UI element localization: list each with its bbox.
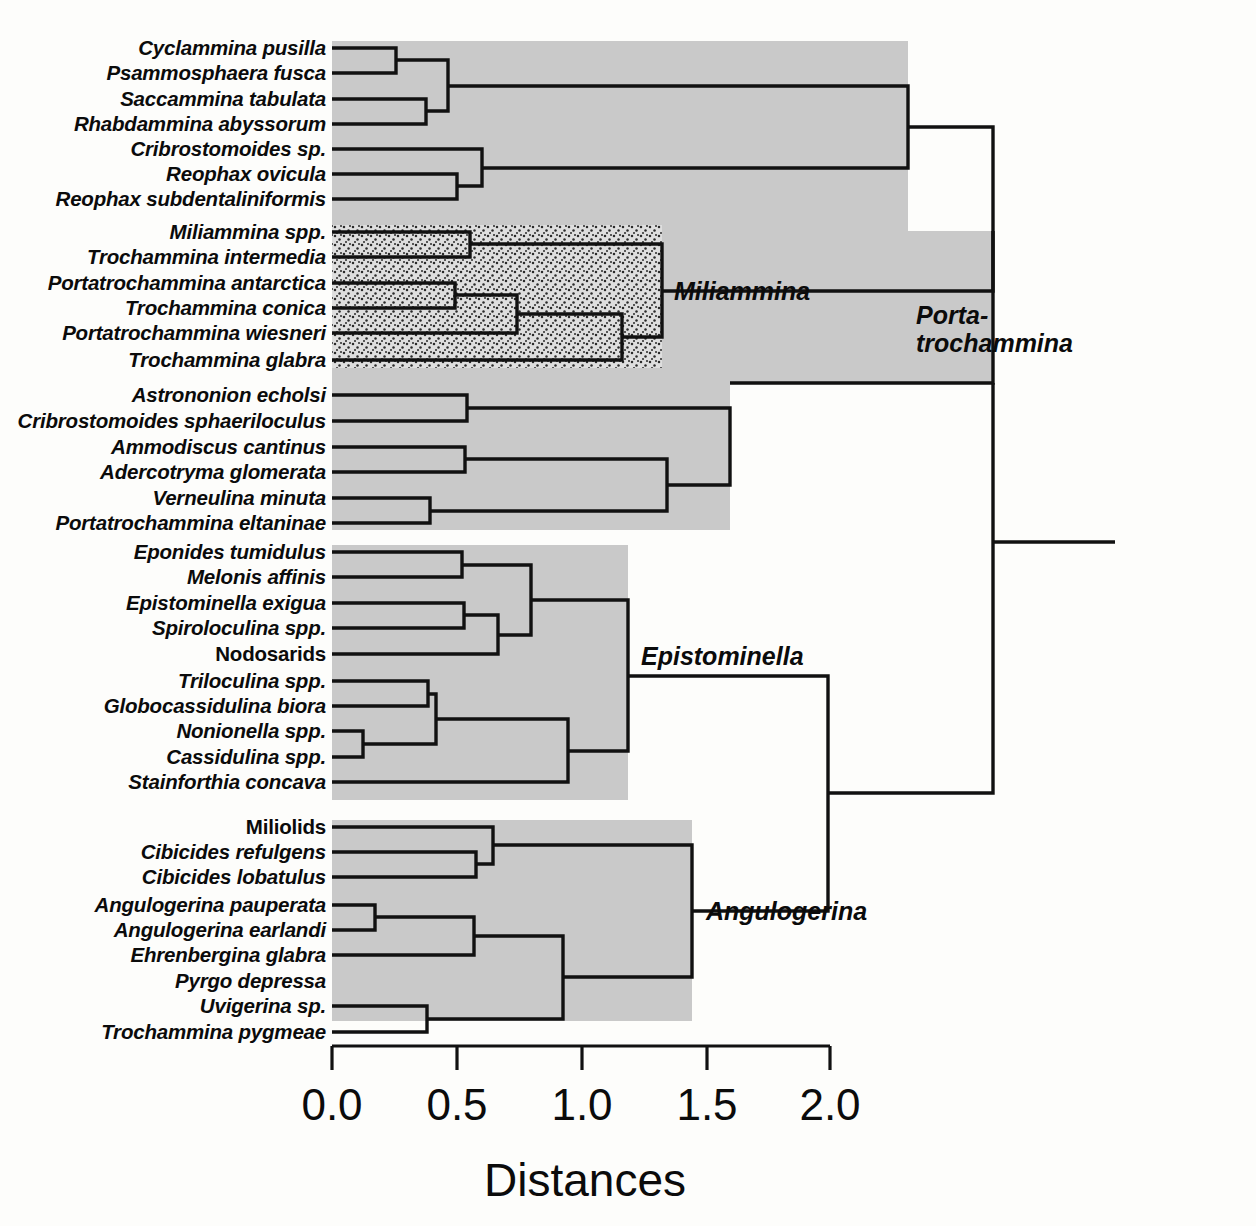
dendrogram-canvas [0,0,1256,1226]
dendrogram-figure: Cyclammina pusillaPsammosphaera fuscaSac… [0,0,1256,1226]
axis-tick-label: 1.5 [676,1080,737,1130]
axis-tick-label: 0.5 [426,1080,487,1130]
clade-label-epistominella: Epistominella [641,643,804,670]
clade-label-portatrochammina-line2: trochammina [916,330,1073,357]
clade-fill-angulogerina [332,820,692,1021]
clade-fill-group [332,41,993,1021]
clade-label-miliammina: Miliammina [674,278,810,305]
clade-label-angulogerina: Angulogerina [706,898,867,925]
axis-title: Distances [484,1153,686,1207]
axis-tick-label: 0.0 [301,1080,362,1130]
axis-tick-label: 2.0 [799,1080,860,1130]
axis-tick-label: 1.0 [551,1080,612,1130]
clade-label-portatrochammina-line1: Porta- [916,302,988,329]
clade-fill-epistominella [332,545,628,800]
x-axis [332,1046,830,1070]
